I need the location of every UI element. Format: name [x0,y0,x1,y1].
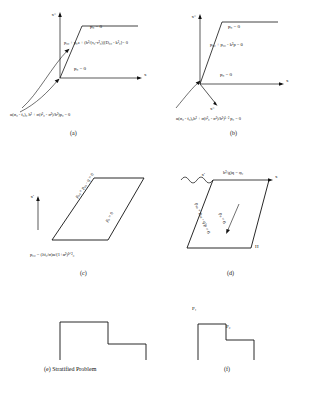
svg-text:x°: x° [52,12,57,17]
svg-text:x°: x° [210,106,215,111]
panel-d: x x' h²/g)q = φ₀ p₀₀ + p₀₀ - q²p = 0 p₀ … [165,168,300,278]
panel-f-annotation-1: P₂ [226,324,231,329]
panel-a-annotation-3: α(σ₀ - f₀)₀ h² + σ(f²₀ - σ²)/h²)p₀ = 0 [10,112,70,117]
panel-a-annotation-2: p₀ = 0 [74,66,86,71]
panel-a-caption: (a) [70,130,77,136]
panel-f-annotation-0: P₁ [192,306,197,311]
panel-a-annotation-1: p₀₀ + p₀z + (h²/(τ₀-τ²₀))[D₀₀ - k²₀]= 0 [64,40,128,45]
panel-f: P₁ P₂ (f) [170,300,300,380]
panel-a: x° x p₀ = 0 p₀₀ + p₀z + (h²/(τ₀-τ²₀))[D₀… [8,8,148,138]
panel-b-annotation-2: p₀ = 0 [220,72,232,77]
panel-f-caption: (f) [224,366,230,372]
panel-f-diagram [170,300,300,380]
panel-b-caption: (b) [230,130,237,136]
svg-text:x: x [275,174,278,179]
panel-c-caption: (c) [80,270,87,276]
svg-text:x: x [286,78,289,83]
svg-text:x': x' [31,194,35,199]
panel-c-annotation-2: p₀₀ = (λf₀/σ)α/(1+α²)¹ᐟ²₀ [30,252,74,257]
svg-text:x': x' [202,172,206,177]
panel-b-annotation-1: p₀₀ + p₀₀ - k²p = 0 [210,42,243,47]
panel-c: x' p₀₀ + p₀₀ - q = 0 p₀ = 0 p₀₀ = (λf₀/σ… [20,168,155,278]
panel-d-annotation-0: h²/g)q = φ₀ [223,170,243,175]
figure-page: x° x p₀ = 0 p₀₀ + p₀z + (h²/(τ₀-τ²₀))[D₀… [0,0,309,398]
svg-text:x°: x° [192,14,197,19]
panel-d-caption: (d) [227,270,234,276]
svg-text:x: x [144,72,147,77]
panel-b: x° x x° p₀ = 0 p₀₀ + p₀₀ - k²p = 0 p₀ = … [158,8,303,138]
panel-a-diagram: x° x [8,8,148,138]
panel-a-annotation-0: p₀ = 0 [90,24,102,29]
panel-d-annotation-3: H [255,244,259,249]
panel-b-annotation-0: p₀ = 0 [228,24,240,29]
panel-d-diagram: x x' [165,168,300,278]
panel-b-annotation-3: α(σ₀ - f₀)₀h² + σ(f²₀ - σ²)/h²)¹ᐟ² p₀ = … [176,116,241,121]
panel-e: (e) Stratified Problem [30,300,160,380]
panel-e-caption: (e) Stratified Problem [44,366,96,372]
